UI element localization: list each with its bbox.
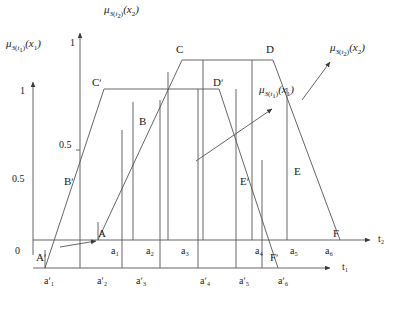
- interval-t1-a1: aʹ₁: [44, 276, 54, 286]
- interval-t1-a6: aʹ₆: [278, 276, 288, 286]
- pointer-mu4: [196, 109, 272, 161]
- axis-name-t1: t₁: [342, 262, 348, 272]
- axis-label-mu-t1-right: μЗ(t1)(x1): [259, 84, 294, 101]
- ytick-center-1: 1: [70, 38, 75, 48]
- ytick-left-1: 1: [20, 86, 25, 96]
- interval-t2-a4: a₄: [255, 246, 263, 256]
- point-label-C-prime: Cʹ: [92, 77, 102, 88]
- interval-t2-a5: a₅: [290, 246, 298, 256]
- interval-t1-a2: aʹ₂: [97, 276, 107, 286]
- ytick-left-0_5: 0.5: [12, 174, 25, 184]
- interval-t2-a1: a₁: [111, 246, 119, 256]
- ytick-center-0_5: 0.5: [59, 140, 72, 150]
- point-label-E-prime: Eʹ: [240, 176, 249, 187]
- point-label-A-prime: Aʹ: [36, 252, 46, 263]
- axis-label-mu-t2-center: μЗ(t2)(x2): [104, 4, 139, 21]
- point-label-B-prime: Bʹ: [64, 176, 74, 187]
- interval-t1-a4: aʹ₄: [200, 276, 210, 286]
- interval-t2-a6: a₆: [325, 246, 333, 256]
- axis-name-t2: t₂: [378, 234, 384, 244]
- axis-label-mu-t2-right: μЗ(t2)(x2): [330, 42, 365, 59]
- interval-t2-a2: a₂: [146, 246, 154, 256]
- pointer-mu3: [302, 62, 330, 100]
- interval-t1-a5: aʹ₅: [239, 276, 249, 286]
- interval-t2-a3: a₃: [181, 246, 189, 256]
- point-label-C: C: [176, 44, 183, 55]
- figure-canvas: μЗ(t1)(x1) μЗ(t2)(x2) μЗ(t2)(x2) μЗ(t1)(…: [0, 0, 402, 315]
- point-label-A: A: [98, 228, 106, 239]
- point-label-D: D: [266, 44, 274, 55]
- pointer-A: [60, 241, 96, 247]
- interval-t1-a3: aʹ₃: [136, 276, 146, 286]
- point-label-F-prime: Fʹ: [270, 252, 279, 263]
- ytick-left-0: 0: [15, 246, 20, 256]
- point-label-D-prime: Dʹ: [213, 77, 223, 88]
- axis-label-mu-t1-left: μЗ(t1)(x1): [6, 38, 41, 55]
- point-label-F: F: [333, 228, 339, 239]
- point-label-E: E: [294, 166, 301, 177]
- point-label-B: B: [139, 116, 146, 127]
